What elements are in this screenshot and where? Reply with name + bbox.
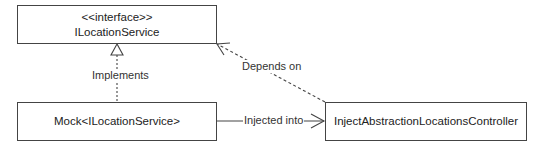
controller-name: InjectAbstractionLocationsController bbox=[334, 114, 518, 129]
open-arrowhead-icon bbox=[217, 43, 230, 55]
mock-name: Mock<ILocationService> bbox=[54, 114, 180, 129]
interface-node[interactable]: <<interface>> ILocationService bbox=[17, 5, 217, 44]
depends-on-label: Depends on bbox=[241, 60, 302, 73]
hollow-triangle-arrowhead-icon bbox=[111, 44, 123, 55]
injected-into-label: Injected into bbox=[243, 114, 304, 127]
interface-name: ILocationService bbox=[74, 25, 159, 40]
controller-node[interactable]: InjectAbstractionLocationsController bbox=[325, 102, 527, 141]
mock-node[interactable]: Mock<ILocationService> bbox=[17, 102, 217, 141]
implements-label: Implements bbox=[91, 69, 150, 82]
stereotype-label: <<interface>> bbox=[82, 10, 153, 25]
